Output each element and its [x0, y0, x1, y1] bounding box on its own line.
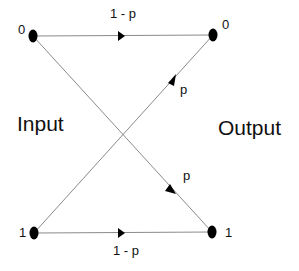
node-input-0: [29, 30, 38, 43]
arrow-right-icon: [118, 228, 125, 238]
edge-label-cross-down: p: [183, 168, 190, 183]
arrow-up-right-icon: [168, 74, 176, 86]
edge-label-bottom: 1 - p: [113, 243, 139, 258]
node-input-1: [30, 227, 39, 240]
node-label-input-0: 0: [18, 22, 25, 37]
node-output-0: [209, 29, 218, 42]
arrow-down-right-icon: [165, 184, 176, 194]
edge-label-cross-up: p: [180, 82, 187, 97]
output-label: Output: [218, 116, 281, 140]
edge-label-top: 1 - p: [110, 6, 136, 21]
node-label-output-0: 0: [222, 17, 229, 32]
node-label-output-1: 1: [225, 225, 232, 240]
input-label: Input: [17, 112, 64, 136]
node-label-input-1: 1: [19, 225, 26, 240]
node-output-1: [208, 226, 217, 239]
arrow-right-icon: [118, 31, 125, 41]
